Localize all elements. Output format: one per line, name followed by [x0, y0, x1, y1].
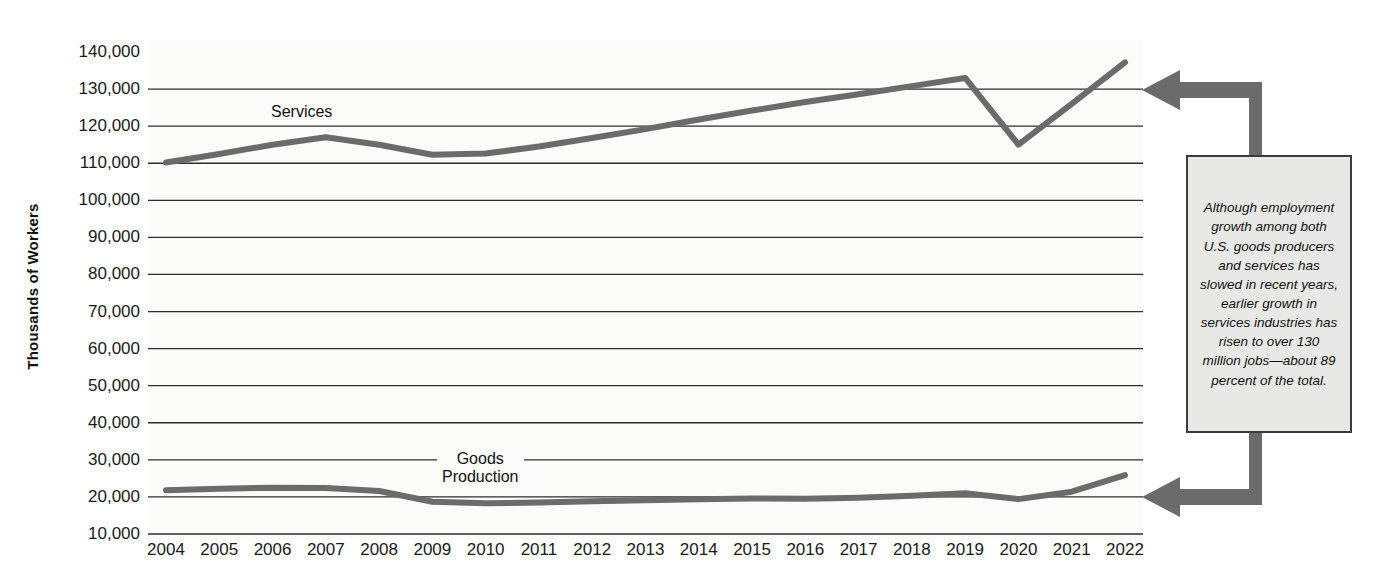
series-label-services: Services	[266, 103, 337, 121]
callout-text: Although employment growth among both U.…	[1198, 198, 1340, 390]
series-label-goods: Goods Production	[437, 450, 524, 487]
callout-box: Although employment growth among both U.…	[1186, 155, 1352, 433]
x-axis-tick-label: 2022	[1093, 540, 1157, 560]
series-label-goods-line2: Production	[442, 468, 519, 486]
chart-figure: Thousands of Workers 140,000130,000120,0…	[0, 0, 1386, 580]
x-axis-ticks: 2004200520062007200820092010201120122013…	[0, 0, 1386, 580]
series-label-goods-line1: Goods	[442, 450, 519, 468]
